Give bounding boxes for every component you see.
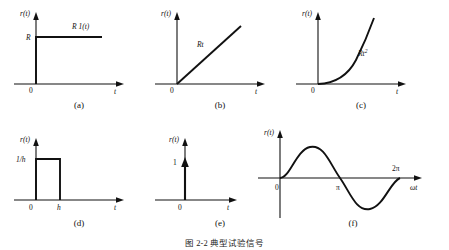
y-axis-arrow <box>277 130 283 138</box>
panel-a-caption: (a) <box>14 100 144 110</box>
panel-b-caption: (b) <box>155 100 285 110</box>
origin-label: 0 <box>311 86 315 95</box>
x-axis-label: t <box>114 87 117 96</box>
x-axis-arrow <box>229 197 237 203</box>
y-axis-arrow <box>182 138 188 146</box>
origin-label: 0 <box>170 86 174 95</box>
impulse-arrowhead <box>181 157 189 167</box>
curve-label-exponent: 2 <box>365 48 368 54</box>
value-label-one: 1 <box>173 158 177 167</box>
x-axis-arrow <box>116 81 124 87</box>
curve-label: Rt2 <box>357 48 368 58</box>
curve-label: Rt <box>196 40 205 49</box>
y-axis-label: r(t) <box>302 9 313 18</box>
x-axis-label: t <box>227 203 230 212</box>
ramp-curve <box>177 26 241 84</box>
value-label-one-over-h: 1/h <box>16 155 26 164</box>
curve-label: R 1(t) <box>71 22 90 31</box>
x-axis-label: ωt <box>410 183 418 192</box>
pulse-curve <box>36 159 60 200</box>
y-axis-label: r(t) <box>264 128 275 137</box>
panel-d-caption: (d) <box>14 218 144 228</box>
panel-a-unit-step: r(t) t 0 R R 1(t) <box>14 4 144 96</box>
panel-c-caption: (c) <box>296 100 426 110</box>
y-axis-arrow <box>315 12 321 20</box>
width-label-h: h <box>57 203 61 212</box>
origin-label: 0 <box>29 203 33 212</box>
tick-label-2pi: 2π <box>392 164 400 173</box>
panel-b-ramp: r(t) t 0 Rt <box>155 4 285 96</box>
x-axis-arrow <box>398 81 406 87</box>
origin-label: 0 <box>275 183 279 192</box>
step-curve <box>36 37 102 84</box>
y-axis-label: r(t) <box>169 135 180 144</box>
y-axis-label: r(t) <box>20 135 31 144</box>
panel-f-sinusoid: r(t) ωt 0 π 2π <box>258 126 448 224</box>
panel-d-rectangular-pulse: r(t) t 0 1/h h <box>14 132 144 214</box>
origin-label: 0 <box>178 203 182 212</box>
figure-caption: 图 2-2 典型试验信号 <box>0 236 449 248</box>
y-axis-arrow <box>33 12 39 20</box>
tick-label-pi: π <box>336 183 340 192</box>
x-axis-arrow <box>257 81 265 87</box>
y-axis-arrow <box>174 12 180 20</box>
x-axis-label: t <box>255 87 258 96</box>
y-axis-label: r(t) <box>161 9 172 18</box>
figure-canvas: r(t) t 0 R R 1(t) (a) r(t) t 0 Rt (b) <box>0 0 449 250</box>
y-axis-label: r(t) <box>20 9 31 18</box>
x-axis-label: t <box>396 87 399 96</box>
panel-f-caption: (f) <box>258 218 448 228</box>
origin-label: 0 <box>29 86 33 95</box>
x-axis-arrow <box>414 175 422 181</box>
x-axis-arrow <box>116 197 124 203</box>
value-label-R: R <box>25 33 31 42</box>
panel-c-parabolic: r(t) t 0 Rt2 <box>296 4 426 96</box>
x-axis-label: t <box>114 203 117 212</box>
y-axis-arrow <box>33 138 39 146</box>
